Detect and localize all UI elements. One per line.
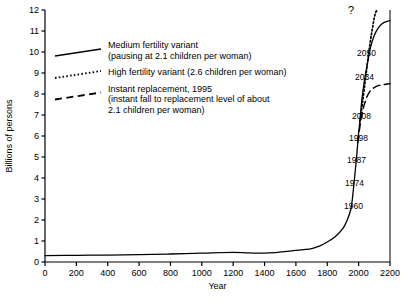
x-tick-label: 1000 — [192, 268, 212, 278]
x-tick-label: 600 — [132, 268, 147, 278]
y-tick-label: 6 — [34, 131, 39, 141]
annotation-question: ? — [348, 4, 354, 16]
x-tick-label: 2000 — [349, 268, 369, 278]
legend-label-2: Instant replacement, 1995 — [108, 84, 212, 94]
x-tick-label: 1400 — [255, 268, 275, 278]
annotation-1987: 1987 — [347, 155, 366, 165]
x-tick-label: 2200 — [380, 268, 400, 278]
y-tick-label: 0 — [34, 257, 39, 267]
legend-label-2: 2.1 children per woman) — [108, 105, 205, 115]
legend-label-1: High fertility variant (2.6 children per… — [108, 67, 287, 77]
y-tick-label: 5 — [34, 152, 39, 162]
legend-label-0: Medium fertility variant — [108, 40, 199, 50]
chart-canvas: 0123456789101112020040060080010001200140… — [0, 0, 414, 299]
y-axis-title: Billions of persons — [4, 99, 14, 173]
legend-swatch-1 — [55, 71, 101, 78]
legend-label-2: (instant fall to replacement level of ab… — [108, 94, 270, 104]
x-axis-title: Year — [208, 281, 226, 291]
annotation-1960: 1960 — [344, 201, 363, 211]
annotation-1974: 1974 — [345, 178, 364, 188]
y-tick-label: 7 — [34, 110, 39, 120]
y-tick-label: 2 — [34, 215, 39, 225]
y-tick-label: 3 — [34, 194, 39, 204]
annotation-2008: 2008 — [352, 111, 371, 121]
annotation-2034: 2034 — [355, 72, 374, 82]
legend-label-0: (pausing at 2.1 children per woman) — [108, 51, 252, 61]
x-tick-label: 1800 — [317, 268, 337, 278]
y-tick-label: 1 — [34, 236, 39, 246]
legend-swatch-2 — [55, 93, 101, 100]
x-tick-label: 200 — [69, 268, 84, 278]
y-tick-label: 11 — [30, 26, 39, 36]
y-tick-label: 10 — [29, 47, 39, 57]
y-tick-label: 12 — [29, 5, 39, 15]
x-tick-label: 0 — [42, 268, 47, 278]
x-tick-label: 1600 — [286, 268, 306, 278]
legend-swatch-0 — [55, 49, 101, 56]
y-tick-label: 9 — [34, 68, 39, 78]
y-tick-label: 8 — [34, 89, 39, 99]
series-line-1 — [360, 10, 378, 121]
annotation-1998: 1998 — [349, 133, 368, 143]
x-tick-label: 800 — [163, 268, 178, 278]
y-tick-label: 4 — [34, 173, 39, 183]
population-projection-chart: 0123456789101112020040060080010001200140… — [0, 0, 414, 299]
x-tick-label: 400 — [100, 268, 115, 278]
x-tick-label: 1200 — [223, 268, 243, 278]
annotation-2050: 2050 — [357, 48, 376, 58]
